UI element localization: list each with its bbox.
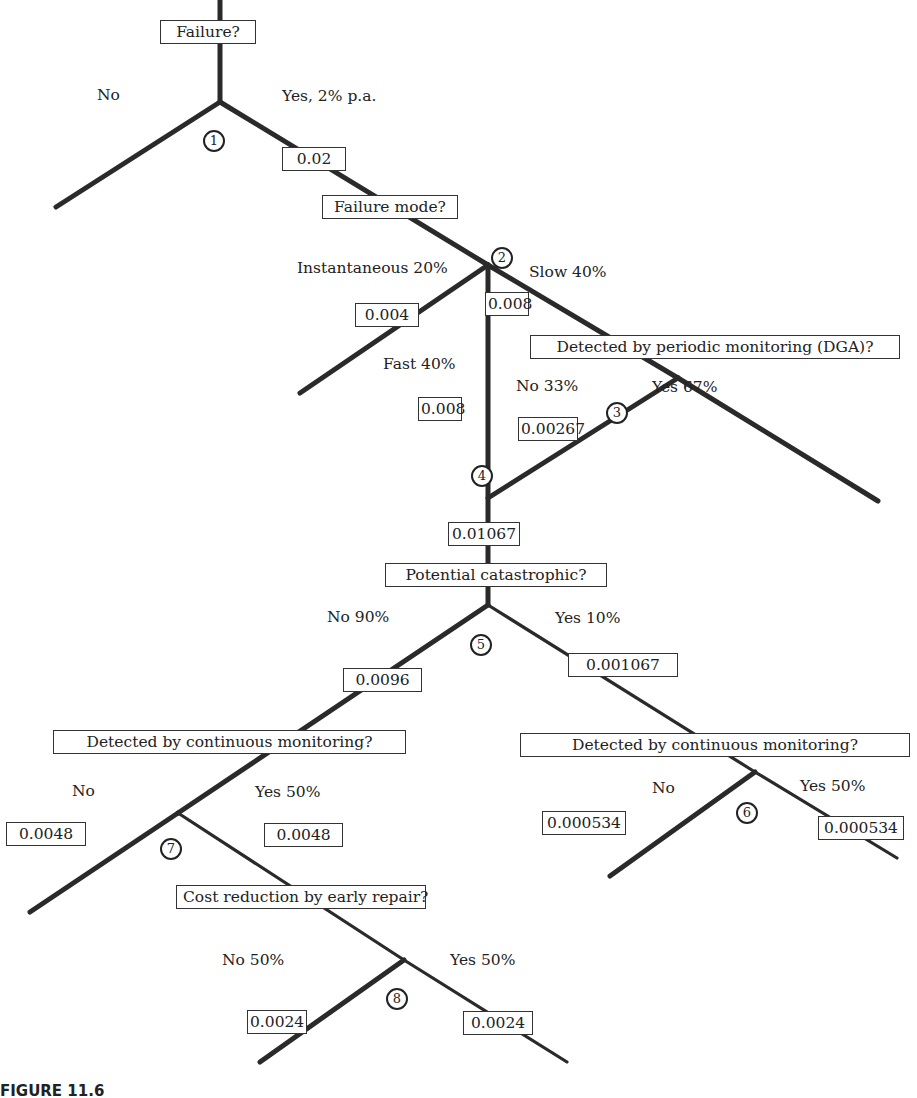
decision-potential-catastrophic: Potential catastrophic? xyxy=(385,563,607,587)
decision-continuous-right: Detected by continuous monitoring? xyxy=(520,733,910,757)
prob-failure: 0.02 xyxy=(282,147,346,171)
prob-cat-no: 0.0096 xyxy=(343,668,422,692)
decision-failure: Failure? xyxy=(160,20,256,44)
prob-cat-yes: 0.001067 xyxy=(568,653,678,677)
prob-slow: 0.008 xyxy=(485,292,529,316)
decision-continuous-left: Detected by continuous monitoring? xyxy=(53,730,406,754)
node-3-icon: 3 xyxy=(606,402,628,424)
label-cost-yes: Yes 50% xyxy=(450,950,515,970)
node-1-icon: 1 xyxy=(203,130,225,152)
label-cont-left-no: No xyxy=(72,781,95,801)
node-4-icon: 4 xyxy=(471,465,493,487)
prob-fast: 0.008 xyxy=(418,397,462,421)
label-failure-yes: Yes, 2% p.a. xyxy=(282,86,376,106)
label-cost-no: No 50% xyxy=(222,950,284,970)
label-fast: Fast 40% xyxy=(383,354,456,374)
figure-caption: FIGURE 11.6 xyxy=(0,1084,104,1098)
prob-combined: 0.01067 xyxy=(448,522,520,546)
label-dga-yes: Yes 67% xyxy=(652,377,717,397)
node-8-icon: 8 xyxy=(386,988,408,1010)
prob-cont-right-yes: 0.000534 xyxy=(818,816,904,840)
prob-cost-yes: 0.0024 xyxy=(463,1011,533,1035)
decision-periodic-monitoring: Detected by periodic monitoring (DGA)? xyxy=(530,335,900,359)
label-instantaneous: Instantaneous 20% xyxy=(297,258,448,278)
prob-dga-no: 0.00267 xyxy=(518,417,578,441)
label-failure-no: No xyxy=(97,85,120,105)
label-cont-left-yes: Yes 50% xyxy=(255,782,320,802)
label-cat-no: No 90% xyxy=(327,607,389,627)
node-7-icon: 7 xyxy=(160,838,182,860)
prob-cont-right-no: 0.000534 xyxy=(542,811,626,835)
prob-cont-left-yes: 0.0048 xyxy=(264,823,343,847)
decision-tree-lines xyxy=(0,0,917,1098)
prob-cont-left-no: 0.0048 xyxy=(6,822,86,846)
label-cont-right-yes: Yes 50% xyxy=(800,776,865,796)
label-cont-right-no: No xyxy=(652,778,675,798)
node-2-icon: 2 xyxy=(491,247,513,269)
node-6-icon: 6 xyxy=(736,802,758,824)
node-5-icon: 5 xyxy=(470,634,492,656)
prob-instantaneous: 0.004 xyxy=(355,303,419,327)
label-dga-no: No 33% xyxy=(516,376,578,396)
label-cat-yes: Yes 10% xyxy=(555,608,620,628)
decision-failure-mode: Failure mode? xyxy=(322,195,458,219)
decision-cost-reduction: Cost reduction by early repair? xyxy=(176,885,426,909)
label-slow: Slow 40% xyxy=(529,262,607,282)
prob-cost-no: 0.0024 xyxy=(247,1010,307,1034)
